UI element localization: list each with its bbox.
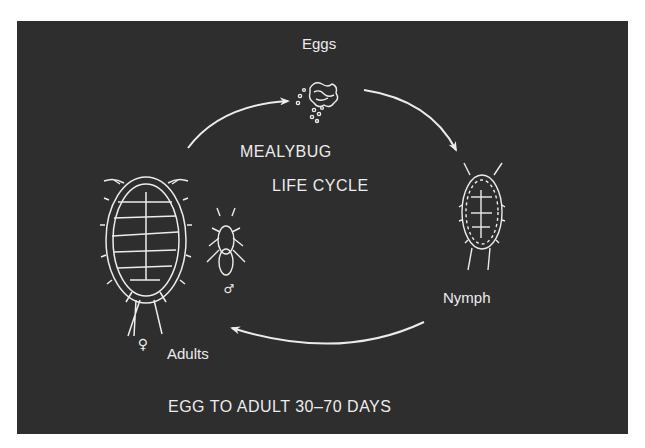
eggs-label: Eggs [302, 35, 336, 52]
male-symbol: ♂ [224, 282, 235, 296]
eggs-icon [296, 83, 337, 123]
duration-caption: EGG TO ADULT 30–70 DAYS [168, 398, 391, 416]
female-adult-icon [100, 177, 192, 336]
arrow-adults-to-eggs [188, 101, 288, 148]
life-cycle-artwork: ♀ ♂ [0, 0, 645, 448]
arrow-eggs-to-nymph [364, 90, 456, 150]
nymph-label: Nymph [443, 289, 491, 306]
female-symbol: ♀ [138, 336, 148, 352]
arrow-nymph-to-adults [232, 322, 424, 344]
title-line-1: MEALYBUG [240, 143, 332, 161]
adults-label: Adults [167, 345, 209, 362]
nymph-icon [459, 163, 505, 270]
male-adult-icon [207, 208, 245, 275]
title-line-2: LIFE CYCLE [272, 177, 369, 195]
